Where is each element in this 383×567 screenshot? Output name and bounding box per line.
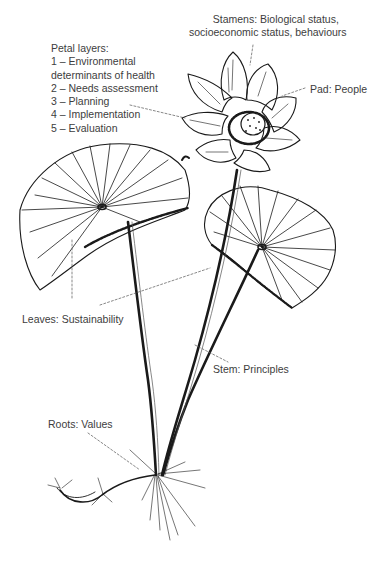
stamens-label: Stamens: Biological status, socioeconomi…: [189, 13, 347, 40]
left-leaf: [20, 144, 190, 290]
petal-layer-2: 2 – Needs assessment: [51, 82, 158, 95]
petal-layer-1-cont: determinants of health: [51, 69, 158, 82]
stem-label: Stem: Principles: [213, 363, 289, 376]
pad-label: Pad: People: [310, 83, 367, 96]
roots: [48, 450, 205, 540]
leaves-label: Leaves: Sustainability: [22, 313, 124, 326]
petal-layers-title: Petal layers:: [51, 42, 158, 55]
stems: [128, 170, 258, 475]
petal-layers-label: Petal layers: 1 – Environmental determin…: [51, 42, 158, 135]
petal-layer-5: 5 – Evaluation: [51, 122, 158, 135]
stamens-line-2: socioeconomic status, behaviours: [189, 26, 347, 39]
lotus-flower: [182, 52, 300, 172]
stamens-line-1: Stamens: Biological status,: [189, 13, 347, 26]
petal-layer-1: 1 – Environmental: [51, 55, 158, 68]
petal-layer-4: 4 – Implementation: [51, 108, 158, 121]
roots-label: Roots: Values: [48, 418, 113, 431]
petal-layer-3: 3 – Planning: [51, 95, 158, 108]
